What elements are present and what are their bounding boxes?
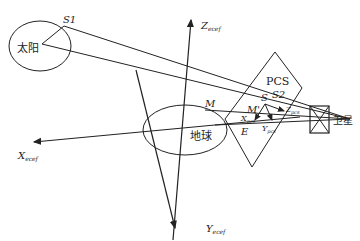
point-e-label: E — [240, 126, 249, 137]
sun-ray-bottom — [42, 44, 350, 119]
sun-label: 太阳 — [17, 42, 39, 55]
pcs-label: PCS — [266, 75, 289, 88]
y-ecef-label: Yecef — [206, 223, 227, 236]
point-m-prime-label: M' — [246, 104, 260, 115]
y-ecef-axis — [136, 70, 175, 228]
satellite-label: 卫星 — [333, 115, 353, 126]
z-pcs-label: Zpcs — [285, 106, 300, 116]
z-ecef-label: Zecef — [200, 20, 222, 33]
diagram-canvas: 太阳 S1 Zecef Yecef Xecef 地球 M E PCS S S2 … — [0, 0, 360, 241]
earth-ray-m — [205, 110, 350, 119]
sun-radius-line — [42, 26, 64, 44]
x-ecef-label: Xecef — [17, 150, 40, 163]
y-pcs-label: Ypcs — [262, 124, 276, 135]
z-ecef-axis — [173, 20, 191, 240]
satellite-icon — [310, 106, 329, 133]
earth-label: 地球 — [190, 129, 212, 143]
point-s1-label: S1 — [63, 14, 76, 25]
earth-ray-e — [215, 119, 350, 125]
point-m-label: M — [204, 98, 216, 109]
x-ecef-axis — [34, 117, 300, 142]
point-s2-label: S2 — [272, 89, 285, 100]
point-s-label: S — [261, 92, 268, 103]
